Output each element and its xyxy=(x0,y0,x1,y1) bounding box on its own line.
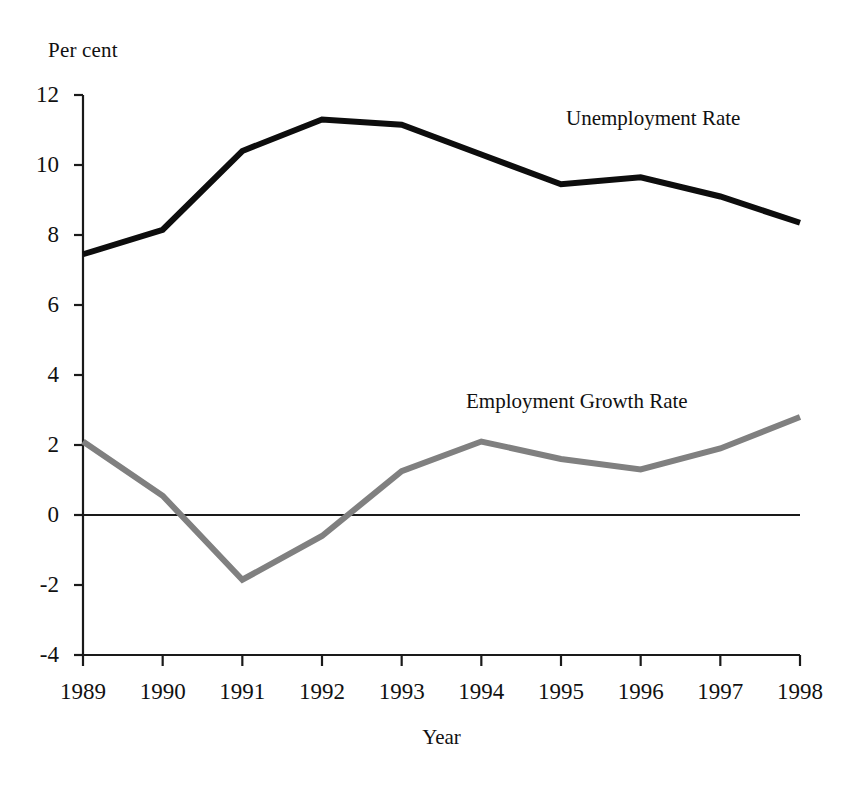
y-tick-label: -4 xyxy=(5,643,59,666)
x-tick-label: 1992 xyxy=(277,680,367,703)
x-tick-label: 1998 xyxy=(755,680,845,703)
chart-figure: Per cent 121086420-2-4 19891990199119921… xyxy=(0,0,864,790)
tick-marks xyxy=(74,95,800,666)
y-tick-label: 0 xyxy=(5,503,59,526)
x-tick-label: 1995 xyxy=(516,680,606,703)
x-tick-label: 1996 xyxy=(596,680,686,703)
series-label-unemployment-rate: Unemployment Rate xyxy=(566,108,740,129)
x-tick-label: 1997 xyxy=(675,680,765,703)
y-tick-label: -2 xyxy=(5,573,59,596)
y-tick-label: 10 xyxy=(5,153,59,176)
y-tick-label: 8 xyxy=(5,223,59,246)
y-tick-label: 4 xyxy=(5,363,59,386)
series-lines xyxy=(83,120,800,580)
series-line-unemployment-rate xyxy=(83,120,800,255)
x-tick-label: 1989 xyxy=(38,680,128,703)
y-tick-label: 6 xyxy=(5,293,59,316)
series-line-employment-growth-rate xyxy=(83,417,800,580)
axis-lines xyxy=(83,95,800,655)
x-tick-label: 1994 xyxy=(436,680,526,703)
x-tick-label: 1991 xyxy=(197,680,287,703)
series-label-employment-growth-rate: Employment Growth Rate xyxy=(466,391,688,412)
x-tick-label: 1990 xyxy=(118,680,208,703)
y-tick-label: 2 xyxy=(5,433,59,456)
y-tick-label: 12 xyxy=(5,83,59,106)
x-axis-title: Year xyxy=(382,727,502,748)
x-tick-label: 1993 xyxy=(357,680,447,703)
